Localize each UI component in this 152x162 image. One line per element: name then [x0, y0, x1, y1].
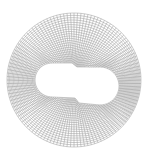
mesh-ring-line: [26, 47, 126, 116]
mesh-ring-line: [34, 61, 120, 106]
mesh-diagram: [0, 0, 152, 162]
